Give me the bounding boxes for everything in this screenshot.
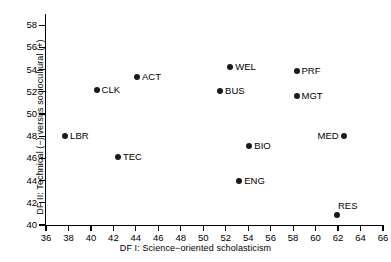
data-point-label: ACT [142,72,161,82]
x-tick-label: 66 [369,233,391,243]
x-tick [315,225,316,231]
x-tick [270,225,271,231]
data-point-label: ENG [244,176,265,186]
data-point-label: TEC [123,152,142,162]
y-tick-label: 54 [3,65,37,75]
data-point[interactable] [62,133,68,139]
y-tick [39,25,46,26]
y-tick-label: 46 [3,153,37,163]
data-point-label: BIO [254,141,270,151]
x-tick [248,225,249,231]
y-tick-label: 40 [3,220,37,230]
x-tick [158,225,159,231]
data-point[interactable] [246,143,252,149]
data-point[interactable] [236,178,242,184]
y-tick-label: 58 [3,20,37,30]
data-point-label: MGT [302,91,323,101]
plot-area: LBRCLKTECACTBUSWELENGBIOMGTPRFRESMED [46,14,383,225]
y-tick [39,180,46,181]
data-point-label: LBR [70,131,88,141]
data-point-label: MED [318,131,344,141]
data-point-label: BUS [225,86,245,96]
y-tick-label: 42 [3,198,37,208]
scatter-plot-figure: DF II: Technical (−) versus sociocultura… [0,0,391,262]
x-tick [113,225,114,231]
data-point[interactable] [134,74,140,80]
y-tick [39,91,46,92]
x-tick [225,225,226,231]
y-tick [39,202,46,203]
y-tick [39,47,46,48]
y-tick-label: 44 [3,176,37,186]
data-point[interactable] [94,87,100,93]
y-tick [39,158,46,159]
x-tick [68,225,69,231]
data-point[interactable] [217,88,223,94]
x-tick [337,225,338,231]
data-point-label: RES [338,201,358,211]
y-tick-label: 52 [3,87,37,97]
data-point-label: CLK [102,85,120,95]
data-point-label: PRF [302,66,321,76]
data-point-label: WEL [235,62,256,72]
y-tick-label: 56 [3,42,37,52]
x-tick [180,225,181,231]
x-axis-label: DF I: Science−oriented scholasticism [0,243,391,253]
x-tick [135,225,136,231]
data-point[interactable] [227,64,233,70]
x-tick [45,225,46,231]
x-tick [90,225,91,231]
x-tick [293,225,294,231]
y-tick-label: 48 [3,131,37,141]
data-point[interactable] [294,68,300,74]
y-tick [39,136,46,137]
data-point[interactable] [115,154,121,160]
x-tick [203,225,204,231]
y-tick [39,69,46,70]
data-point[interactable] [294,93,300,99]
y-tick-label: 50 [3,109,37,119]
y-tick [39,113,46,114]
data-point[interactable] [334,212,340,218]
x-tick [382,225,383,231]
x-tick [360,225,361,231]
